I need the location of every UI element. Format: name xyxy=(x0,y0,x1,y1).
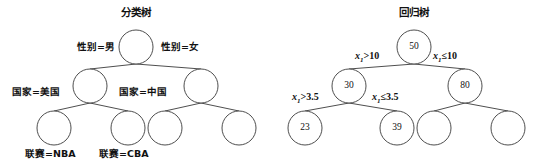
decision-tree-figure: 分类树 性别=男 xyxy=(0,0,541,165)
edge-female-to-leaf2 xyxy=(201,103,239,111)
edge-label-x1-lessequal-10: x1≤10 xyxy=(433,50,457,61)
edge-label-country-usa: 国家=美国 xyxy=(12,86,60,97)
node-regression-leaf-4 xyxy=(491,111,525,145)
edge-label-x1-greater-35: x1>3.5 xyxy=(292,91,319,102)
node-classification-male xyxy=(73,69,107,103)
edge-female-to-leaf1 xyxy=(165,103,201,111)
node-classification-female xyxy=(184,69,218,103)
edge-root-to-male xyxy=(90,64,136,69)
edge-label-country-china: 国家=中国 xyxy=(119,86,167,97)
classification-tree-graph xyxy=(0,0,271,165)
node-value-80: 80 xyxy=(450,80,480,91)
leaf-label-league-cba: 联赛=CBA xyxy=(99,148,149,159)
edge-30-to-39 xyxy=(349,103,397,111)
threshold: 10 xyxy=(369,50,379,61)
edge-label-x1-greater-10: x1>10 xyxy=(355,50,379,61)
threshold: 3.5 xyxy=(386,91,399,102)
node-value-23: 23 xyxy=(290,122,320,133)
node-classification-leaf-nba xyxy=(37,111,71,145)
leaf-label-league-nba: 联赛=NBA xyxy=(25,148,76,159)
node-classification-leaf-cba xyxy=(111,111,145,145)
classification-tree-panel: 分类树 性别=男 xyxy=(0,0,271,165)
node-classification-leaf-3 xyxy=(148,111,182,145)
edge-label-gender-male: 性别=男 xyxy=(77,41,115,52)
regression-tree-panel: 回归树 50 30 80 23 39 xyxy=(270,0,541,165)
edge-80-to-leaf2 xyxy=(465,103,508,111)
node-value-39: 39 xyxy=(382,122,412,133)
edge-label-x1-lessequal-35: x1≤3.5 xyxy=(372,91,399,102)
edge-root-to-80 xyxy=(414,64,465,69)
edge-80-to-leaf1 xyxy=(434,103,465,111)
threshold: 10 xyxy=(447,50,457,61)
edge-root-to-30 xyxy=(349,64,414,69)
node-value-30: 30 xyxy=(334,80,364,91)
node-value-root: 50 xyxy=(399,41,429,52)
node-regression-leaf-3 xyxy=(417,111,451,145)
threshold: 3.5 xyxy=(306,91,319,102)
edge-male-to-usa xyxy=(54,103,90,111)
node-classification-leaf-4 xyxy=(222,111,256,145)
edge-30-to-23 xyxy=(305,103,349,111)
node-classification-root xyxy=(119,30,153,64)
edge-root-to-female xyxy=(136,64,201,69)
edge-label-gender-female: 性别=女 xyxy=(161,41,199,52)
edge-male-to-china xyxy=(90,103,128,111)
regression-tree-graph xyxy=(270,0,541,165)
